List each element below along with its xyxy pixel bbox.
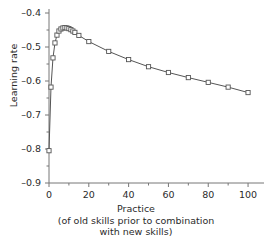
x-axis-sublabel-line1: (of old skills prior to combination — [0, 215, 272, 226]
data-line — [49, 28, 248, 151]
data-point-marker — [77, 33, 81, 37]
data-point-marker — [246, 90, 250, 94]
data-point-marker — [226, 85, 230, 89]
data-point-marker — [107, 49, 111, 53]
data-point-marker — [127, 57, 131, 61]
data-point-marker — [166, 70, 170, 74]
data-point-marker — [146, 65, 150, 69]
data-point-marker — [49, 85, 53, 89]
x-axis-sublabel-line2: with new skills) — [0, 226, 272, 237]
data-point-marker — [87, 39, 91, 43]
data-point-marker — [51, 56, 55, 60]
x-axis-label: Practice — [0, 203, 272, 214]
data-point-marker — [55, 33, 59, 37]
data-point-marker — [186, 76, 190, 80]
data-point-marker — [53, 41, 57, 45]
data-point-marker — [47, 149, 51, 153]
chart-figure: Learning rate –0.9–0.8–0.7–0.6–0.5–0.4 0… — [0, 0, 272, 240]
data-point-marker — [206, 80, 210, 84]
